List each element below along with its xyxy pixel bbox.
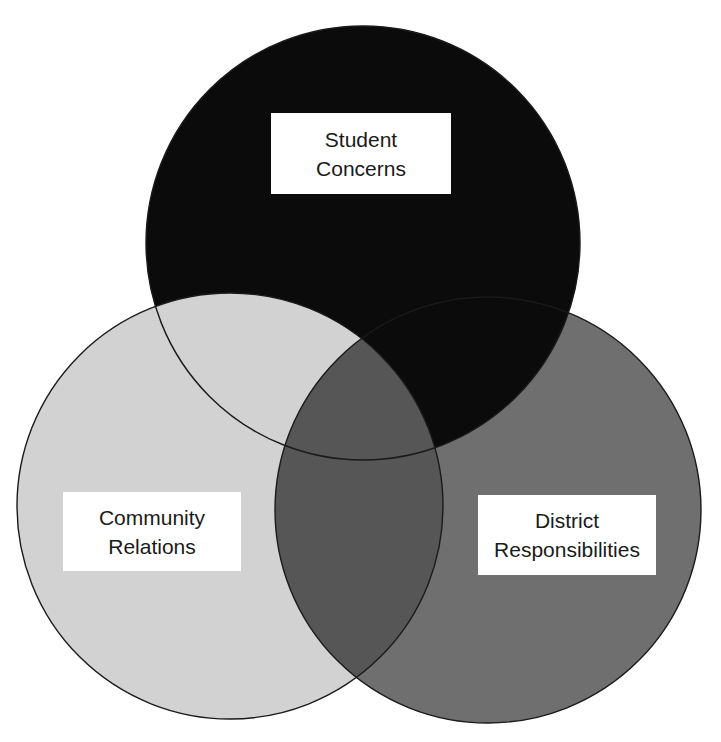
district-responsibilities-label-line-2: Responsibilities — [494, 535, 640, 564]
district-responsibilities-label-line-1: District — [535, 506, 599, 535]
community-relations-label-line-1: Community — [99, 503, 205, 532]
student-concerns-label: Student Concerns — [271, 113, 451, 194]
student-concerns-label-line-2: Concerns — [316, 154, 406, 183]
student-concerns-label-line-1: Student — [325, 125, 397, 154]
venn-diagram — [0, 0, 721, 742]
community-relations-label: Community Relations — [63, 492, 241, 571]
district-responsibilities-label: District Responsibilities — [478, 495, 656, 575]
community-relations-label-line-2: Relations — [108, 532, 196, 561]
